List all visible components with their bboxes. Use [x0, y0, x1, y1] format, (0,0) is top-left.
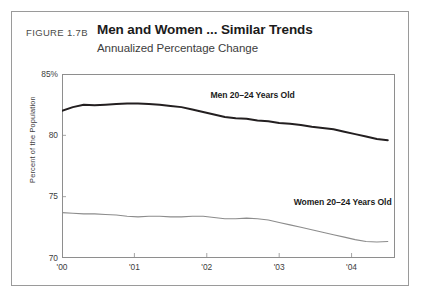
- chart-title: Men and Women ... Similar Trends: [97, 22, 313, 37]
- series-line: [62, 103, 388, 140]
- x-tick-label: '00: [57, 262, 68, 272]
- series-line: [62, 213, 388, 242]
- series-annotation-label: Women 20–24 Years Old: [294, 197, 392, 207]
- x-tick-label: '02: [201, 262, 212, 272]
- x-tick-label: '01: [129, 262, 140, 272]
- x-tick-label: '04: [346, 262, 357, 272]
- y-tick-label: 85%: [28, 69, 58, 79]
- x-tick-label: '03: [274, 262, 285, 272]
- y-tick-label: 70: [28, 253, 58, 263]
- y-axis-tick-labels: 70758085%: [28, 0, 58, 296]
- chart-subtitle: Annualized Percentage Change: [97, 42, 258, 54]
- figure-root: FIGURE 1.7B Men and Women ... Similar Tr…: [0, 0, 421, 296]
- series-annotation-label: Men 20–24 Years Old: [210, 90, 294, 100]
- plot-lines: [62, 74, 395, 258]
- y-tick-label: 80: [28, 130, 58, 140]
- y-tick-label: 75: [28, 191, 58, 201]
